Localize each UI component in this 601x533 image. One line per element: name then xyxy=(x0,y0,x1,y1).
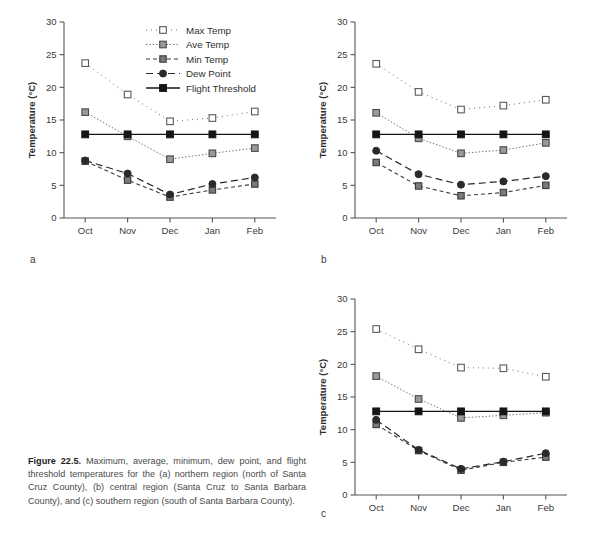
y-axis-title: Temperature (°C) xyxy=(26,82,37,158)
figure-caption: Figure 22.5. Maximum, average, minimum, … xyxy=(28,455,306,508)
y-axis-title: Temperature (°C) xyxy=(317,82,328,158)
x-tick-label: Dec xyxy=(453,502,470,513)
x-axis-ticks-a: OctNovDecJanFeb xyxy=(78,218,263,236)
y-tick-label: 0 xyxy=(342,212,347,223)
y-tick-label: 25 xyxy=(46,49,57,60)
series-flight-threshold xyxy=(82,131,258,138)
y-tick-label: 15 xyxy=(337,114,348,125)
chart-legend: Max TempAve TempMin TempDew PointFlight … xyxy=(146,25,256,94)
x-tick-label: Jan xyxy=(205,225,220,236)
chart-panel-b: 051015202530OctNovDecJanFebTemperature (… xyxy=(315,10,583,258)
chart-svg-a: 051015202530OctNovDecJanFebTemperature (… xyxy=(24,10,292,258)
x-axis-ticks-b: OctNovDecJanFeb xyxy=(369,218,554,236)
y-tick-label: 10 xyxy=(337,147,348,158)
x-tick-label: Feb xyxy=(538,502,554,513)
y-axis-ticks-b: 051015202530 xyxy=(337,16,355,223)
chart-svg-b: 051015202530OctNovDecJanFebTemperature (… xyxy=(315,10,583,258)
panel-letter-b: b xyxy=(321,254,327,265)
chart-panel-a: 051015202530OctNovDecJanFebTemperature (… xyxy=(24,10,292,258)
y-tick-label: 0 xyxy=(342,489,347,500)
y-tick-label: 20 xyxy=(46,82,57,93)
y-tick-label: 5 xyxy=(51,180,56,191)
chart-svg-c: 051015202530OctNovDecJanFebTemperature (… xyxy=(315,287,583,533)
series-max-temp xyxy=(373,61,549,113)
y-tick-label: 10 xyxy=(337,424,348,435)
y-tick-label: 20 xyxy=(337,82,348,93)
legend-label: Ave Temp xyxy=(186,39,230,50)
x-tick-label: Oct xyxy=(78,225,93,236)
legend-label: Min Temp xyxy=(186,54,229,65)
y-tick-label: 15 xyxy=(46,114,57,125)
y-tick-label: 30 xyxy=(46,16,57,27)
x-tick-label: Nov xyxy=(410,502,427,513)
y-tick-label: 20 xyxy=(337,359,348,370)
y-tick-label: 0 xyxy=(51,212,56,223)
y-tick-label: 10 xyxy=(46,147,57,158)
x-tick-label: Dec xyxy=(453,225,470,236)
x-tick-label: Jan xyxy=(496,225,511,236)
x-tick-label: Dec xyxy=(162,225,179,236)
x-axis-ticks-c: OctNovDecJanFeb xyxy=(369,495,554,513)
y-axis-title: Temperature (°C) xyxy=(317,359,328,435)
legend-label: Dew Point xyxy=(186,68,231,79)
x-tick-label: Jan xyxy=(496,502,511,513)
y-tick-label: 30 xyxy=(337,293,348,304)
x-tick-label: Feb xyxy=(538,225,554,236)
x-tick-label: Nov xyxy=(119,225,136,236)
y-axis-ticks-c: 051015202530 xyxy=(337,293,355,500)
y-tick-label: 25 xyxy=(337,326,348,337)
x-tick-label: Oct xyxy=(369,502,384,513)
x-tick-label: Feb xyxy=(247,225,263,236)
x-tick-label: Nov xyxy=(410,225,427,236)
panel-letter-c: c xyxy=(321,508,326,519)
y-tick-label: 30 xyxy=(337,16,348,27)
figure-22-5: 051015202530OctNovDecJanFebTemperature (… xyxy=(0,0,601,533)
y-tick-label: 25 xyxy=(337,49,348,60)
y-axis-ticks-a: 051015202530 xyxy=(46,16,64,223)
figure-caption-label: Figure 22.5. xyxy=(28,456,81,466)
legend-label: Max Temp xyxy=(186,25,232,36)
y-tick-label: 15 xyxy=(337,391,348,402)
series-dew-point xyxy=(82,157,259,198)
y-tick-label: 5 xyxy=(342,180,347,191)
series-flight-threshold xyxy=(373,131,549,138)
chart-panel-c: 051015202530OctNovDecJanFebTemperature (… xyxy=(315,287,583,533)
legend-label: Flight Threshold xyxy=(186,83,256,94)
series-max-temp xyxy=(373,326,549,380)
y-tick-label: 5 xyxy=(342,457,347,468)
panel-letter-a: a xyxy=(30,254,36,265)
x-tick-label: Oct xyxy=(369,225,384,236)
series-dew-point xyxy=(373,416,550,472)
